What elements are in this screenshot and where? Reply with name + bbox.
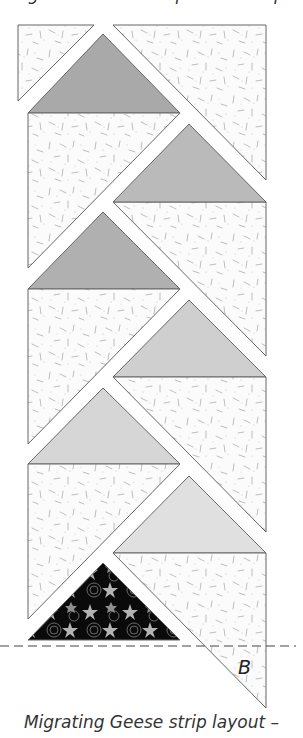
label-b: B	[238, 656, 251, 678]
caption: Migrating Geese strip layout –	[0, 712, 303, 732]
strip-layout-diagram: B	[0, 0, 303, 712]
